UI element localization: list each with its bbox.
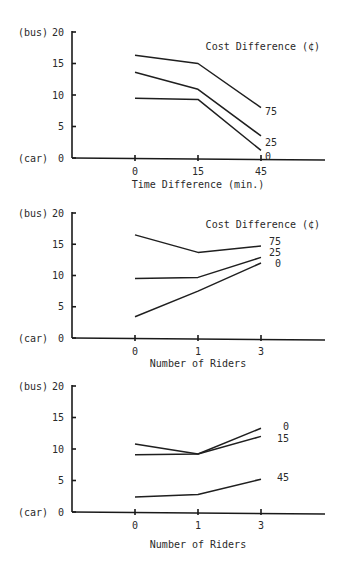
y-tick-label: 20 — [52, 27, 64, 38]
chart-time-difference: 05101520(bus)(car)01545Time Difference (… — [0, 0, 339, 195]
y-tick-label: 0 — [58, 507, 64, 518]
series-label: 75 — [265, 106, 277, 117]
y-tick-label: 15 — [52, 412, 64, 423]
series-label: 0 — [265, 151, 271, 162]
y-tick-label: 20 — [52, 381, 64, 392]
y-tick-label: 10 — [52, 90, 64, 101]
x-axis-label: Number of Riders — [150, 539, 246, 550]
y-tick-label: 5 — [58, 121, 64, 132]
y-bottom-label: (car) — [18, 153, 48, 164]
y-tick-label: 10 — [52, 270, 64, 281]
series-line-75 — [135, 235, 261, 253]
x-tick-label: 1 — [195, 520, 201, 531]
chart-riders-time: 05101520(bus)(car)013Number of Riders015… — [0, 380, 339, 570]
y-tick-label: 5 — [58, 301, 64, 312]
x-tick-label: 0 — [132, 520, 138, 531]
y-tick-label: 5 — [58, 475, 64, 486]
y-tick-label: 0 — [58, 153, 64, 164]
y-bottom-label: (car) — [18, 333, 48, 344]
series-line-0 — [135, 263, 261, 317]
y-top-label: (bus) — [18, 27, 48, 38]
y-tick-label: 10 — [52, 444, 64, 455]
y-top-label: (bus) — [18, 208, 48, 219]
series-label: 0 — [283, 421, 289, 432]
x-axis-label: Number of Riders — [150, 358, 246, 369]
y-tick-label: 20 — [52, 208, 64, 219]
series-line-0 — [135, 98, 261, 150]
y-top-label: (bus) — [18, 381, 48, 392]
chart-svg: 05101520(bus)(car)013Number of Riders015… — [0, 380, 339, 570]
x-tick-label: 1 — [195, 346, 201, 357]
y-tick-label: 0 — [58, 333, 64, 344]
x-tick-label: 0 — [132, 166, 138, 177]
series-line-25 — [135, 72, 261, 136]
chart-svg: 05101520(bus)(car)01545Time Difference (… — [0, 0, 339, 195]
x-axis-label: Time Difference (min.) — [132, 179, 264, 190]
x-tick-label: 3 — [258, 346, 264, 357]
x-tick-label: 3 — [258, 520, 264, 531]
chart-svg: 05101520(bus)(car)013Number of RidersCos… — [0, 195, 339, 380]
series-label: 25 — [269, 247, 281, 258]
y-tick-label: 15 — [52, 239, 64, 250]
series-line-15 — [135, 436, 261, 454]
x-tick-label: 15 — [192, 166, 204, 177]
legend-title: Cost Difference (¢) — [206, 41, 320, 52]
series-line-25 — [135, 257, 261, 278]
y-bottom-label: (car) — [18, 507, 48, 518]
series-label: 75 — [269, 236, 281, 247]
series-line-45 — [135, 479, 261, 497]
series-label: 0 — [275, 258, 281, 269]
chart-riders-cost: 05101520(bus)(car)013Number of RidersCos… — [0, 195, 339, 380]
legend-title: Cost Difference (¢) — [206, 219, 320, 230]
series-label: 15 — [277, 433, 289, 444]
y-tick-label: 15 — [52, 58, 64, 69]
x-tick-label: 0 — [132, 346, 138, 357]
series-label: 45 — [277, 472, 289, 483]
x-tick-label: 45 — [255, 166, 267, 177]
series-label: 25 — [265, 137, 277, 148]
